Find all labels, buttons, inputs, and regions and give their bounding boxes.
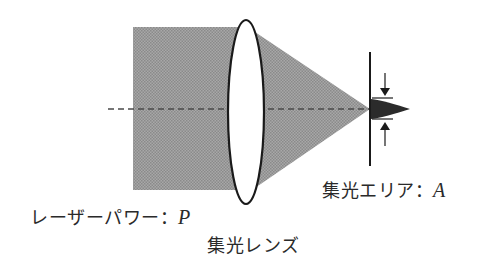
focusing-lens-label-text: 集光レンズ [207, 235, 300, 256]
focus-spot-profile [371, 99, 410, 119]
focus-area-label: 集光エリア：A [322, 180, 446, 200]
focusing-lens [228, 20, 264, 204]
laser-power-label-text: レーザーパワー： [30, 207, 178, 228]
arrow-up-icon [380, 122, 390, 146]
arrow-down-icon [380, 73, 390, 96]
focus-area-label-text: 集光エリア： [322, 180, 433, 201]
laser-beam-converging [252, 30, 370, 190]
laser-power-label: レーザーパワー：P [30, 207, 191, 227]
laser-power-variable: P [178, 206, 191, 228]
focus-area-variable: A [433, 179, 446, 201]
focusing-lens-label: 集光レンズ [207, 237, 300, 255]
laser-focusing-diagram [0, 0, 486, 269]
